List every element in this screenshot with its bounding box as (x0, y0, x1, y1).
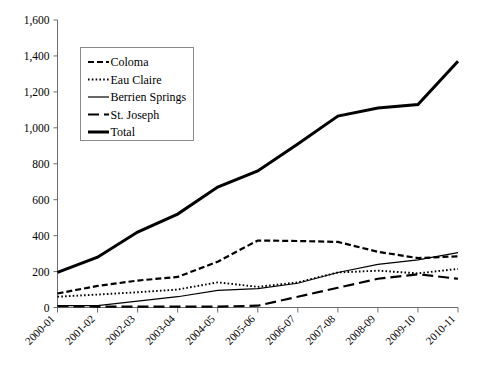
y-tick-label: 1,200 (24, 86, 50, 99)
y-tick-label: 200 (32, 266, 50, 278)
series-line-eau-claire (58, 269, 459, 297)
legend-label-total: Total (111, 125, 136, 139)
y-tick-label: 1,600 (24, 14, 50, 27)
x-tick-label: 2001-02 (63, 312, 97, 346)
y-tick-label: 0 (44, 302, 50, 314)
y-tick-label: 1,000 (24, 122, 50, 135)
x-tick-label: 2006-07 (263, 312, 298, 347)
legend-label-berrien-springs: Berrien Springs (111, 90, 187, 104)
x-tick-label: 2010-11 (423, 312, 457, 346)
series-line-coloma (58, 240, 459, 293)
y-tick-label: 800 (32, 158, 50, 170)
y-axis-tick-labels: 02004006008001,0001,2001,4001,600 (24, 14, 50, 314)
legend-label-st-joseph: St. Joseph (111, 108, 160, 122)
x-tick-label: 2003-04 (143, 312, 178, 347)
legend-label-coloma: Coloma (111, 55, 150, 69)
x-tick-label: 2002-03 (103, 312, 138, 347)
y-tick-label: 400 (32, 230, 50, 242)
x-tick-label: 2000-01 (22, 312, 56, 346)
x-tick-label: 2004-05 (183, 312, 218, 347)
x-tick-label: 2009-10 (383, 312, 418, 347)
x-tick-label: 2008-09 (343, 312, 378, 347)
x-tick-label: 2007-08 (303, 312, 338, 347)
y-tick-label: 600 (32, 194, 50, 206)
series-line-st-joseph (58, 274, 459, 306)
y-tick-label: 1,400 (24, 50, 50, 63)
series-line-berrien-springs (58, 253, 459, 306)
chart-canvas: 02004006008001,0001,2001,4001,600 2000-0… (0, 0, 482, 370)
y-axis-ticks (54, 20, 58, 308)
legend-label-eau-claire: Eau Claire (111, 73, 162, 87)
x-axis-ticks (58, 308, 459, 313)
line-chart: 02004006008001,0001,2001,4001,600 2000-0… (0, 0, 482, 370)
x-axis-tick-labels: 2000-012001-022002-032003-042004-052005-… (22, 312, 457, 347)
x-tick-label: 2005-06 (223, 312, 258, 347)
